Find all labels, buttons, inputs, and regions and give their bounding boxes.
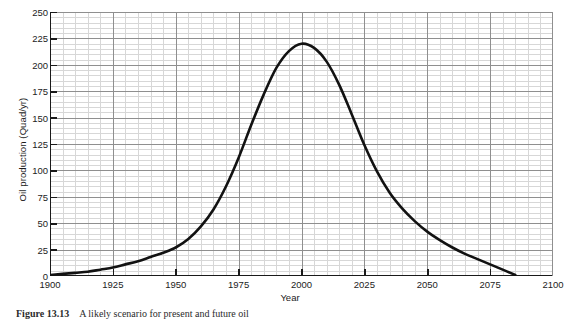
figure-caption: Figure 13.13 A likely scenario for prese… bbox=[16, 308, 556, 319]
y-axis-tick-labels: 0255075100125150175200225250 bbox=[16, 0, 48, 322]
y-tick-label: 175 bbox=[16, 86, 48, 97]
x-tick-label: 1975 bbox=[217, 279, 261, 290]
y-tick-label: 200 bbox=[16, 59, 48, 70]
figure-caption-text: A likely scenario for present and future… bbox=[79, 308, 249, 319]
x-tick-label: 1950 bbox=[154, 279, 198, 290]
x-tick-label: 1900 bbox=[28, 279, 72, 290]
x-tick-label: 2050 bbox=[405, 279, 449, 290]
y-tick-label: 125 bbox=[16, 139, 48, 150]
y-tick-label: 25 bbox=[16, 244, 48, 255]
x-tick-label: 2100 bbox=[531, 279, 575, 290]
x-axis-tick-labels: 190019251950197520002025205020752100 bbox=[0, 279, 580, 293]
x-tick-label: 2000 bbox=[280, 279, 324, 290]
y-tick-label: 75 bbox=[16, 191, 48, 202]
x-axis-title: Year bbox=[0, 292, 580, 303]
y-tick-label: 250 bbox=[16, 7, 48, 18]
figure-container: Oil production (Quad/yr) 025507510012515… bbox=[0, 0, 580, 322]
y-tick-label: 50 bbox=[16, 218, 48, 229]
oil-production-curve bbox=[50, 44, 515, 275]
plot-area bbox=[50, 12, 553, 276]
x-tick-label: 2075 bbox=[468, 279, 512, 290]
x-tick-label: 2025 bbox=[342, 279, 386, 290]
y-tick-label: 100 bbox=[16, 165, 48, 176]
y-tick-label: 150 bbox=[16, 112, 48, 123]
x-tick-label: 1925 bbox=[91, 279, 135, 290]
y-tick-label: 225 bbox=[16, 33, 48, 44]
chart-svg bbox=[50, 12, 553, 276]
figure-caption-number: Figure 13.13 bbox=[16, 308, 69, 319]
